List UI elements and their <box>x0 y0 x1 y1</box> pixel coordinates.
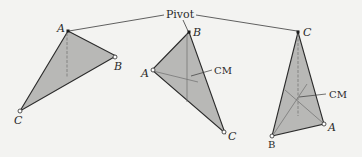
triangle-1: A B C <box>14 22 122 127</box>
cm-label: CM <box>214 65 232 76</box>
cm-label: CM <box>329 89 347 100</box>
triangle-2: B A C CM <box>140 26 237 143</box>
vertex-label-c: C <box>228 130 237 143</box>
vertex-c-icon <box>18 109 22 113</box>
vertex-label-b: B <box>113 60 122 73</box>
pivot-label: Pivot <box>166 8 195 21</box>
triangle-3: C A B CM <box>268 26 347 150</box>
vertex-label-a: A <box>327 121 336 134</box>
vertex-label-a: A <box>56 22 65 35</box>
vertex-label-a: A <box>140 67 149 80</box>
vertex-label-b: B <box>192 26 201 39</box>
pivot-point-icon <box>188 31 191 34</box>
pendulum-triangle-diagram: Pivot A B C B A C CM <box>0 0 362 157</box>
vertex-label-b: B <box>268 139 275 150</box>
vertex-c-icon <box>222 130 226 134</box>
vertex-a-icon <box>322 122 326 126</box>
pivot-point-icon <box>297 31 300 34</box>
vertex-a-icon <box>151 68 155 72</box>
vertex-label-c: C <box>14 114 23 127</box>
diagram-svg: Pivot A B C B A C CM <box>0 0 362 157</box>
pivot-point-icon <box>67 30 70 33</box>
vertex-label-c: C <box>303 26 312 39</box>
triangle-1-shape <box>20 31 116 111</box>
vertex-b-icon <box>113 55 117 59</box>
vertex-b-icon <box>270 134 274 138</box>
triangle-2-shape <box>152 32 225 133</box>
